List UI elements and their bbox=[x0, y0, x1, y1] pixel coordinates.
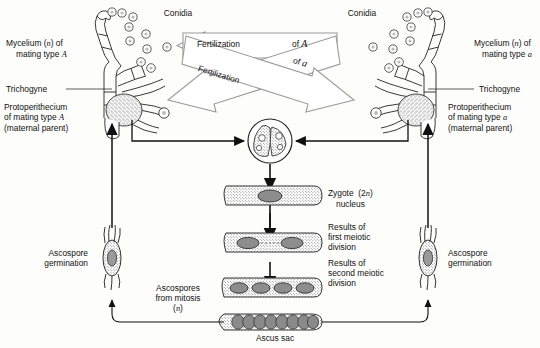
conidium-on-trichogyne-left bbox=[159, 108, 169, 118]
label-second-meiosis: Results ofsecond meioticdivision bbox=[328, 258, 420, 288]
label-fertilization-of-A: Fertilization bbox=[197, 39, 240, 49]
label-zygote: Zygote (2n)nucleus bbox=[328, 188, 416, 209]
first-meiosis-cell bbox=[224, 233, 322, 252]
label-fertilization-of-A-suffix: of A bbox=[292, 39, 307, 49]
label-mycelium-right: Mycelium (n) ofmating type a bbox=[474, 38, 540, 60]
label-ascospore-germination-left: Ascosporegermination bbox=[18, 248, 88, 268]
label-conidia-right: Conidia bbox=[332, 8, 392, 18]
fertilized-cell-circle bbox=[248, 119, 292, 163]
ascus-sac bbox=[219, 314, 322, 330]
life-cycle-diagram: Conidia Conidia Mycelium (n) ofmating ty… bbox=[0, 0, 540, 348]
return-loop-right bbox=[322, 300, 428, 322]
label-conidia-left: Conidia bbox=[148, 8, 208, 18]
label-first-meiosis: Results offirst meioticdivision bbox=[328, 222, 416, 252]
zygote-cell bbox=[224, 186, 322, 205]
label-protoperithecium-left: Protoperitheciumof mating type A(materna… bbox=[4, 102, 96, 133]
label-ascus-sac: Ascus sac bbox=[240, 333, 310, 343]
germinating-ascospore-right bbox=[419, 225, 437, 290]
protoperithecium-right bbox=[374, 79, 435, 139]
second-meiosis-cell bbox=[222, 278, 322, 297]
germinating-ascospore-left bbox=[103, 225, 121, 290]
label-ascospores-from-mitosis: Ascosporesfrom mitosis(n) bbox=[140, 283, 216, 314]
protoperithecium-left bbox=[105, 79, 166, 139]
label-trichogyne-right: Trichogyne bbox=[479, 84, 520, 94]
label-ascospore-germination-right: Ascosporegermination bbox=[448, 248, 528, 268]
label-trichogyne-left: Trichogyne bbox=[6, 84, 47, 94]
label-protoperithecium-right: Protoperitheciumof mating type a(materna… bbox=[448, 102, 540, 133]
label-mycelium-left: Mycelium (n) ofmating type A bbox=[6, 38, 92, 60]
conidium-on-trichogyne-right bbox=[371, 108, 381, 118]
